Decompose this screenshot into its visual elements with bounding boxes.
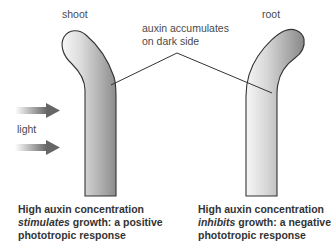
root-label: root [262,8,280,21]
shoot-label: shoot [62,8,88,21]
auxin-label-line1: auxin accumulates [142,22,229,35]
root-caption-emphasis: inhibits [198,216,235,228]
root-caption-line1: High auxin concentration [198,203,331,216]
shoot-caption-line2-rest: growth: a positive [70,216,163,228]
light-arrow-top [15,103,60,118]
auxin-label: auxin accumulates on dark side [142,22,229,48]
shoot-caption-emphasis: stimulates [18,216,70,228]
light-label: light [17,123,36,136]
light-arrow-bottom [15,140,60,155]
root-caption-line2-rest: growth: a negative [235,216,331,228]
root-caption-line3: phototropic response [198,229,331,242]
shoot-stem [62,31,116,196]
shoot-caption-line3: phototropic response [18,229,163,242]
shoot-caption-line1: High auxin concentration [18,203,163,216]
shoot-caption-line2: stimulates growth: a positive [18,216,163,229]
root-caption: High auxin concentration inhibits growth… [198,203,331,242]
auxin-label-line2: on dark side [142,35,229,48]
root-stem [246,29,304,196]
root-caption-line2: inhibits growth: a negative [198,216,331,229]
shoot-caption: High auxin concentration stimulates grow… [18,203,163,242]
